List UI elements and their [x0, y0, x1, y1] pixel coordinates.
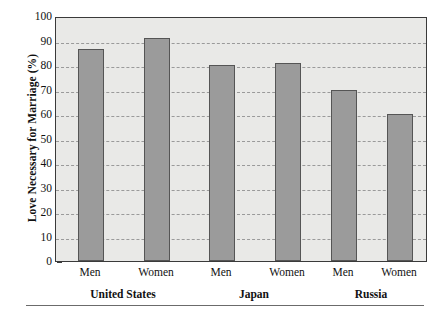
- gridline: [56, 165, 426, 166]
- bar: [275, 63, 301, 261]
- gridline: [56, 141, 426, 142]
- gridline: [56, 67, 426, 68]
- bar: [209, 65, 235, 261]
- bar: [331, 90, 357, 262]
- gridline: [56, 116, 426, 117]
- y-tick-label: 100: [12, 11, 52, 23]
- gridline: [56, 239, 426, 240]
- bar: [78, 49, 104, 261]
- y-tick-label: 60: [12, 109, 52, 121]
- y-tick-label: 10: [12, 232, 52, 244]
- bar-chart-figure: Love Necessary for Marriage (%) 01020304…: [0, 0, 442, 315]
- gridline: [56, 214, 426, 215]
- group-label: United States: [53, 288, 193, 300]
- y-tick-label: 20: [12, 207, 52, 219]
- group-label: Russia: [301, 288, 441, 300]
- y-tick-mark: [57, 262, 62, 263]
- y-tick-label: 70: [12, 85, 52, 97]
- bottom-rule: [26, 305, 424, 306]
- y-tick-label: 50: [12, 134, 52, 146]
- bar: [387, 114, 413, 261]
- y-tick-label: 40: [12, 158, 52, 170]
- x-tick-label: Women: [359, 266, 439, 278]
- y-tick-label: 90: [12, 36, 52, 48]
- y-tick-label: 30: [12, 183, 52, 195]
- gridline: [56, 92, 426, 93]
- y-axis-tick-labels: 0102030405060708090100: [8, 0, 52, 315]
- gridline: [56, 190, 426, 191]
- bar: [144, 38, 170, 261]
- y-tick-label: 0: [12, 256, 52, 268]
- y-tick-label: 80: [12, 60, 52, 72]
- plot-area: [55, 17, 427, 262]
- gridline: [56, 43, 426, 44]
